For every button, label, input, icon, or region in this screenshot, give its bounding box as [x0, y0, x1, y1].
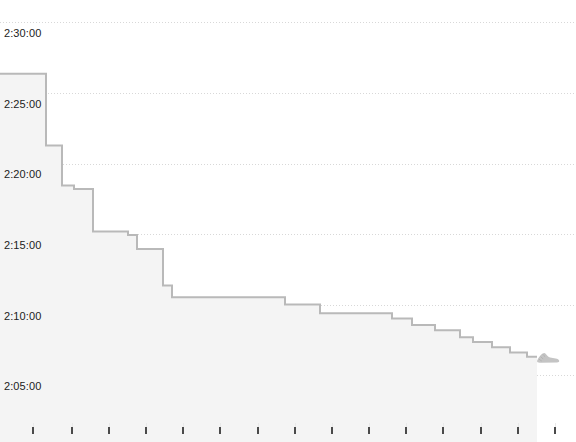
y-tick-label: 2:05:00: [4, 381, 41, 392]
x-tick-mark: [182, 427, 184, 434]
x-tick-mark: [71, 427, 73, 434]
y-tick-label: 2:20:00: [4, 169, 41, 180]
y-tick-label: 2:30:00: [4, 28, 41, 39]
x-tick-mark: [294, 427, 296, 434]
x-tick-mark: [554, 427, 556, 434]
x-tick-mark: [442, 427, 444, 434]
x-tick-mark: [480, 427, 482, 434]
x-tick-mark: [368, 427, 370, 434]
step-line-chart[interactable]: 2:30:00 2:25:00 2:20:00 2:15:00 2:10:00 …: [0, 0, 576, 442]
series-path-group: [0, 0, 576, 442]
x-tick-mark: [219, 427, 221, 434]
x-tick-mark: [331, 427, 333, 434]
x-tick-mark: [257, 427, 259, 434]
x-tick-mark: [517, 427, 519, 434]
chart-screen: 2:30:00 2:25:00 2:20:00 2:15:00 2:10:00 …: [0, 0, 576, 442]
running-shoe-icon: [535, 349, 561, 369]
y-tick-label: 2:10:00: [4, 311, 41, 322]
x-tick-mark: [108, 427, 110, 434]
y-tick-label: 2:15:00: [4, 240, 41, 251]
y-tick-label: 2:25:00: [4, 99, 41, 110]
x-tick-mark: [405, 427, 407, 434]
x-tick-mark: [32, 427, 34, 434]
x-tick-mark: [145, 427, 147, 434]
series-area-fill: [0, 74, 537, 442]
